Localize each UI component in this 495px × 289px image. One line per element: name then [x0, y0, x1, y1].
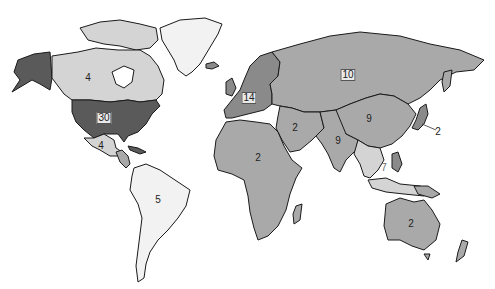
label-usa: 30	[96, 112, 111, 124]
label-canada: 4	[85, 73, 91, 83]
region-madagascar	[293, 204, 302, 224]
region-usa[interactable]	[72, 100, 160, 142]
region-central-america[interactable]	[116, 150, 130, 168]
region-caribbean	[128, 146, 146, 154]
region-philippines	[392, 152, 402, 172]
label-mexico: 4	[98, 141, 104, 151]
label-middle-east: 2	[292, 123, 298, 133]
label-india: 9	[335, 136, 341, 146]
world-map	[0, 0, 495, 289]
region-iceland	[206, 62, 219, 69]
label-china: 9	[366, 114, 372, 124]
region-alaska[interactable]	[12, 52, 52, 92]
japan-leader-line	[422, 124, 436, 130]
label-southeast-asia: 7	[381, 163, 387, 173]
label-south-america: 5	[155, 195, 161, 205]
label-africa: 2	[255, 153, 261, 163]
region-tasmania	[424, 254, 430, 260]
region-south-america[interactable]	[130, 164, 190, 282]
label-australia: 2	[408, 219, 414, 229]
region-canada-arctic	[80, 20, 158, 50]
region-new-guinea	[414, 186, 440, 198]
region-canada[interactable]	[52, 48, 164, 102]
label-europe: 14	[241, 92, 256, 104]
label-japan: 2	[435, 127, 441, 137]
label-russia: 10	[340, 69, 355, 81]
region-uk	[226, 78, 236, 96]
region-new-zealand	[456, 240, 468, 262]
region-kamchatka	[442, 70, 452, 92]
